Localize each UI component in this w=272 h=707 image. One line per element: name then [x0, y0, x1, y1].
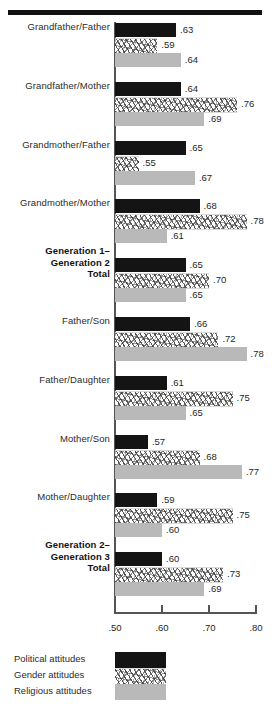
bar-political [115, 258, 186, 272]
x-axis-tick-label: .60 [155, 622, 168, 633]
bar-value-label: .61 [171, 377, 184, 389]
bar-gender [115, 567, 223, 583]
bar-group: Grandmother/Mother.68.78.61 [0, 199, 272, 244]
bar-value-label: .61 [171, 230, 184, 242]
bar-political [115, 82, 181, 96]
bar-political [115, 376, 167, 390]
bar-gender [115, 508, 233, 524]
category-label: Mother/Son [0, 433, 110, 445]
bar-value-label: .72 [222, 333, 235, 345]
bar-religious [115, 112, 204, 126]
bar-political [115, 493, 157, 507]
bar-gender [115, 214, 247, 230]
bar-value-label: .78 [251, 348, 264, 360]
bar-religious [115, 229, 167, 243]
category-label: Grandmother/Mother [0, 197, 110, 209]
bar-group: Father/Daughter.61.75.65 [0, 376, 272, 421]
legend-item-label: Religious attitudes [14, 685, 92, 696]
bar-gender [115, 450, 200, 466]
bar-value-label: .75 [237, 509, 250, 521]
bar-political [115, 317, 190, 331]
bar-gender [115, 156, 139, 172]
bar-group: Mother/Daughter.59.75.60 [0, 493, 272, 538]
x-axis-tick [114, 605, 116, 612]
bar-religious [115, 582, 204, 596]
x-axis-tick-label: .80 [249, 622, 262, 633]
bar-value-label: .60 [166, 524, 179, 536]
bar-gender [115, 391, 233, 407]
bar-gender [115, 97, 237, 113]
bar-group: Grandmother/Father.65.55.67 [0, 141, 272, 186]
bar-group: Grandfather/Mother.64.76.69 [0, 82, 272, 127]
bar-gender [115, 273, 209, 289]
x-axis-line [114, 612, 257, 614]
bar-value-label: .78 [251, 215, 264, 227]
bar-value-label: .65 [190, 142, 203, 154]
bar-religious [115, 347, 247, 361]
category-label: Generation 1– Generation 2 Total [0, 245, 110, 280]
bar-value-label: .59 [161, 39, 174, 51]
category-label: Father/Son [0, 315, 110, 327]
bar-political [115, 23, 176, 37]
bar-group: Mother/Son.57.68.77 [0, 435, 272, 480]
category-label: Generation 2– Generation 3 Total [0, 539, 110, 574]
bar-political [115, 141, 186, 155]
legend-swatch-religious [115, 684, 166, 700]
bar-religious [115, 406, 186, 420]
bar-religious [115, 523, 162, 537]
x-axis-tick [208, 605, 210, 612]
bar-value-label: .65 [190, 407, 203, 419]
bar-value-label: .63 [180, 24, 193, 36]
bar-political [115, 435, 148, 449]
category-label: Father/Daughter [0, 374, 110, 386]
legend-item: Political attitudes [0, 652, 272, 668]
bar-value-label: .68 [204, 200, 217, 212]
plot-area: Grandfather/Father.63.59.64Grandfather/M… [0, 22, 272, 612]
bar-group: Generation 2– Generation 3 Total.60.73.6… [0, 552, 272, 597]
top-rule-divider [8, 10, 262, 15]
bar-value-label: .67 [199, 172, 212, 184]
bar-value-label: .69 [208, 113, 221, 125]
x-axis-tick [255, 605, 257, 612]
bar-group: Grandfather/Father.63.59.64 [0, 23, 272, 68]
x-axis-tick-label: .50 [108, 622, 121, 633]
x-axis-tick-label: .70 [202, 622, 215, 633]
bar-religious [115, 53, 181, 67]
bar-value-label: .76 [241, 98, 254, 110]
bar-value-label: .55 [143, 157, 156, 169]
legend-item-label: Gender attitudes [14, 669, 84, 680]
bar-political [115, 552, 162, 566]
bar-value-label: .70 [213, 274, 226, 286]
bar-value-label: .73 [227, 568, 240, 580]
bar-gender [115, 38, 157, 54]
bar-value-label: .65 [190, 259, 203, 271]
category-label: Grandfather/Father [0, 21, 110, 33]
category-label: Grandmother/Father [0, 139, 110, 151]
bar-value-label: .68 [204, 451, 217, 463]
x-axis-tick [161, 605, 163, 612]
bar-value-label: .64 [185, 54, 198, 66]
bar-group: Father/Son.66.72.78 [0, 317, 272, 362]
category-label: Grandfather/Mother [0, 80, 110, 92]
bar-chart: Grandfather/Father.63.59.64Grandfather/M… [0, 0, 272, 707]
bar-religious [115, 465, 242, 479]
legend-swatch-political [115, 652, 166, 668]
bar-political [115, 199, 200, 213]
bar-value-label: .60 [166, 553, 179, 565]
bar-value-label: .66 [194, 318, 207, 330]
bar-value-label: .64 [185, 83, 198, 95]
bar-value-label: .77 [246, 466, 259, 478]
legend-item-label: Political attitudes [14, 653, 85, 664]
bar-value-label: .75 [237, 392, 250, 404]
bar-religious [115, 288, 186, 302]
bar-religious [115, 171, 195, 185]
bar-gender [115, 332, 218, 348]
category-label: Mother/Daughter [0, 491, 110, 503]
legend-item: Religious attitudes [0, 684, 272, 700]
legend-item: Gender attitudes [0, 668, 272, 684]
bar-group: Generation 1– Generation 2 Total.65.70.6… [0, 258, 272, 303]
bar-value-label: .69 [208, 583, 221, 595]
bar-value-label: .65 [190, 289, 203, 301]
bar-value-label: .57 [152, 436, 165, 448]
bar-value-label: .59 [161, 494, 174, 506]
